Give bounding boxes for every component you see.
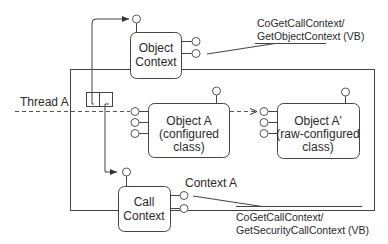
callout-top-line1: CoGetCallContext/	[257, 17, 345, 29]
object-a-interface-icon	[131, 119, 139, 127]
object-a-prime-interface-icon	[260, 108, 268, 116]
call-context-top-interface-icon	[123, 168, 131, 176]
object-context-label-line2: Context	[135, 55, 177, 69]
object-a-interface-icon	[131, 108, 139, 116]
object-context-top-interface-icon	[133, 15, 141, 23]
callout-bottom-line2: GetSecurityCallContext (VB)	[236, 224, 369, 236]
thread-to-object-context-arrow	[92, 19, 129, 104]
object-a-interface-icon	[131, 130, 139, 138]
call-context-label-line1: Call	[134, 195, 155, 209]
object-a-prime-interface-icon	[260, 119, 268, 127]
callout-top-line2: GetObjectContext (VB)	[257, 30, 364, 42]
object-a-label-line3: class)	[173, 140, 204, 154]
object-a-prime-label-line1: Object A'	[294, 114, 342, 128]
object-a-prime-label-line2: (raw-configured	[276, 127, 359, 141]
call-context-interface-icon	[180, 192, 188, 200]
callout-bottom-line1: CoGetCallContext/	[236, 211, 324, 223]
callout-bottom-leader	[193, 196, 262, 207]
object-context-interface-icon	[192, 38, 200, 46]
object-a-label-line2: (configured	[159, 127, 219, 141]
callout-top-leader	[207, 44, 275, 55]
call-context-label-line2: Context	[123, 209, 165, 223]
thread-to-call-context-arrow	[105, 104, 117, 172]
object-a-prime-top-interface-icon	[342, 88, 350, 96]
object-a-prime-label-line3: class)	[302, 140, 333, 154]
object-context-interface-icon	[192, 50, 200, 58]
object-a-top-interface-icon	[213, 87, 221, 95]
thread-a-label: Thread A	[20, 95, 69, 109]
object-a-prime-interface-icon	[260, 130, 268, 138]
diagram-canvas: Context A Thread A Object Context CoGetC…	[0, 0, 388, 244]
object-a-label-line1: Object A	[166, 114, 211, 128]
context-a-label: Context A	[185, 176, 237, 190]
object-context-label-line1: Object	[139, 41, 174, 55]
call-context-interface-icon	[180, 205, 188, 213]
